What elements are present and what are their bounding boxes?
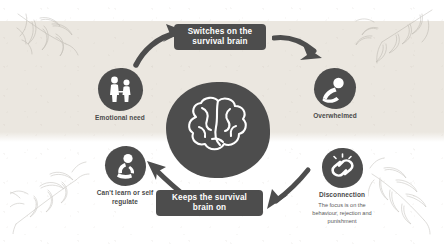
overwhelmed-blob (314, 68, 356, 109)
overwhelmed-label: Overwhelmed (295, 112, 375, 121)
emotional-need-blob (98, 68, 143, 111)
node-cant-learn[interactable]: Can't learn or self regulate (83, 146, 167, 207)
broken-chain-icon (322, 148, 363, 188)
emotional-need-label: Emotional need (80, 114, 160, 123)
pill-keeps-survival-brain-on[interactable]: Keeps the survival brain on (156, 190, 263, 216)
two-people-icon (98, 68, 143, 111)
botanical-top-right-icon (352, 6, 436, 72)
diagram-canvas: Emotional need Overwhelmed (0, 0, 444, 247)
arrow-switches-to-overwhelmed-icon (272, 30, 328, 66)
botanical-bottom-left-icon (10, 152, 94, 234)
botanical-top-left-icon (14, 10, 100, 72)
node-emotional-need[interactable]: Emotional need (80, 68, 160, 123)
node-overwhelmed[interactable]: Overwhelmed (295, 68, 375, 121)
center-node (166, 82, 270, 178)
curled-person-icon (105, 146, 146, 186)
disconnection-blob (322, 148, 363, 188)
pill-switches-on-survival-brain[interactable]: Switches on the survival brain (174, 24, 266, 50)
cant-learn-label: Can't learn or self regulate (83, 189, 167, 207)
brain-icon (166, 82, 270, 178)
disconnection-label: Disconnection (294, 191, 390, 200)
disconnection-sublabel: The focus is on the behaviour, rejection… (294, 201, 390, 225)
cant-learn-blob (105, 146, 146, 186)
node-disconnection[interactable]: Disconnection The focus is on the behavi… (294, 148, 390, 225)
distressed-person-icon (314, 68, 356, 109)
brain-blob (166, 82, 270, 178)
